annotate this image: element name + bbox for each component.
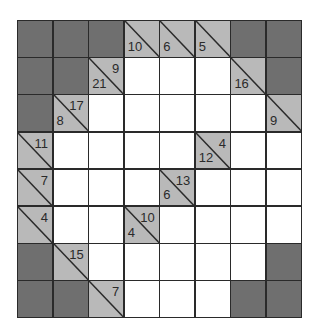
- block-cell: [18, 281, 52, 317]
- block-cell: [231, 21, 265, 57]
- entry-cell[interactable]: [125, 244, 159, 280]
- entry-cell[interactable]: [89, 170, 123, 206]
- clue-cell: 178: [54, 95, 88, 131]
- down-clue: 4: [128, 226, 135, 239]
- entry-cell[interactable]: [231, 133, 265, 169]
- across-clue: 7: [112, 285, 119, 298]
- entry-cell[interactable]: [89, 95, 123, 131]
- down-clue: 21: [92, 77, 106, 90]
- down-clue: 9: [270, 114, 277, 127]
- across-clue: 4: [41, 211, 48, 224]
- clue-cell: 10: [125, 21, 159, 57]
- clue-cell: 4: [18, 207, 52, 243]
- clue-cell: 6: [160, 21, 194, 57]
- entry-cell[interactable]: [267, 170, 301, 206]
- entry-cell[interactable]: [196, 95, 230, 131]
- entry-cell[interactable]: [54, 133, 88, 169]
- block-cell: [267, 281, 301, 317]
- clue-cell: 921: [89, 58, 123, 94]
- entry-cell[interactable]: [89, 207, 123, 243]
- clue-cell: 412: [196, 133, 230, 169]
- block-cell: [18, 58, 52, 94]
- entry-cell[interactable]: [160, 133, 194, 169]
- across-clue: 7: [41, 174, 48, 187]
- entry-cell[interactable]: [231, 170, 265, 206]
- entry-cell[interactable]: [267, 207, 301, 243]
- entry-cell[interactable]: [160, 95, 194, 131]
- entry-cell[interactable]: [160, 207, 194, 243]
- block-cell: [267, 244, 301, 280]
- block-cell: [267, 21, 301, 57]
- clue-cell: 16: [231, 58, 265, 94]
- down-clue: 6: [163, 188, 170, 201]
- entry-cell[interactable]: [160, 58, 194, 94]
- entry-cell[interactable]: [125, 170, 159, 206]
- entry-cell[interactable]: [54, 170, 88, 206]
- entry-cell[interactable]: [125, 95, 159, 131]
- block-cell: [18, 95, 52, 131]
- entry-cell[interactable]: [125, 281, 159, 317]
- entry-cell[interactable]: [160, 244, 194, 280]
- across-clue: 17: [69, 99, 83, 112]
- block-cell: [267, 58, 301, 94]
- across-clue: 10: [140, 211, 154, 224]
- down-clue: 6: [163, 40, 170, 53]
- block-cell: [89, 21, 123, 57]
- across-clue: 15: [69, 248, 83, 261]
- clue-cell: 136: [160, 170, 194, 206]
- block-cell: [54, 281, 88, 317]
- across-clue: 11: [35, 137, 49, 150]
- entry-cell[interactable]: [125, 58, 159, 94]
- down-clue: 5: [199, 40, 206, 53]
- across-clue: 4: [219, 137, 226, 150]
- kakuro-board: 10659211617891141271364104157: [17, 20, 302, 318]
- clue-cell: 5: [196, 21, 230, 57]
- across-clue: 13: [176, 174, 190, 187]
- entry-cell[interactable]: [160, 281, 194, 317]
- down-clue: 10: [128, 40, 142, 53]
- entry-cell[interactable]: [267, 133, 301, 169]
- down-clue: 16: [234, 77, 248, 90]
- entry-cell[interactable]: [231, 244, 265, 280]
- block-cell: [18, 21, 52, 57]
- entry-cell[interactable]: [89, 133, 123, 169]
- down-clue: 12: [199, 151, 213, 164]
- clue-cell: 9: [267, 95, 301, 131]
- entry-cell[interactable]: [196, 170, 230, 206]
- entry-cell[interactable]: [196, 281, 230, 317]
- entry-cell[interactable]: [196, 58, 230, 94]
- entry-cell[interactable]: [231, 95, 265, 131]
- entry-cell[interactable]: [54, 207, 88, 243]
- clue-cell: 11: [18, 133, 52, 169]
- block-cell: [54, 58, 88, 94]
- block-cell: [231, 281, 265, 317]
- clue-cell: 7: [18, 170, 52, 206]
- entry-cell[interactable]: [231, 207, 265, 243]
- across-clue: 9: [112, 62, 119, 75]
- clue-cell: 7: [89, 281, 123, 317]
- entry-cell[interactable]: [89, 244, 123, 280]
- entry-cell[interactable]: [196, 207, 230, 243]
- entry-cell[interactable]: [196, 244, 230, 280]
- block-cell: [54, 21, 88, 57]
- block-cell: [18, 244, 52, 280]
- clue-cell: 15: [54, 244, 88, 280]
- down-clue: 8: [57, 114, 64, 127]
- entry-cell[interactable]: [125, 133, 159, 169]
- clue-cell: 104: [125, 207, 159, 243]
